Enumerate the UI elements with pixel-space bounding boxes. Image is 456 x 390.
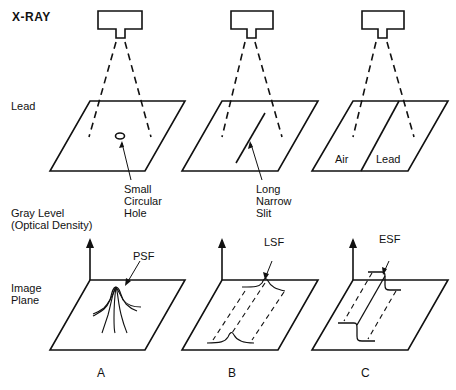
function-label-psf: PSF [133,250,154,262]
row-label-lead: Lead [11,100,35,112]
xray-tube-b [231,11,273,38]
row-label-image-plane: Image Plane [11,282,42,306]
panel-caption-a: A [97,366,105,380]
aperture-label-lead: Lead [376,153,400,165]
image-plane-c [312,280,448,350]
xray-title: X-RAY [12,11,51,23]
aperture-label-air: Air [335,153,348,165]
panel-caption-c: C [361,366,370,380]
function-label-esf: ESF [379,233,400,245]
panel-caption-b: B [228,366,236,380]
esf-curve [338,272,401,341]
circular-hole [116,133,125,139]
diagram-stage: X-RAY Lead Gray Level (Optical Density) … [0,0,456,390]
diagram-graphics [0,0,456,390]
xray-tube-a [98,11,142,38]
lsf-curve [207,279,285,343]
gray-level-axes [86,238,357,280]
xray-beams [89,42,414,137]
psf-curve [93,287,141,333]
xray-tube-c [362,11,404,38]
aperture-label-b: Long Narrow Slit [256,183,291,219]
aperture-label-a: Small Circular Hole [124,183,162,219]
lead-plane-a [50,101,185,171]
lead-plane-b [182,101,318,171]
image-plane-b [182,280,318,350]
function-label-lsf: LSF [264,236,284,248]
narrow-slit [236,113,265,163]
row-label-gray-level: Gray Level (Optical Density) [11,207,92,231]
